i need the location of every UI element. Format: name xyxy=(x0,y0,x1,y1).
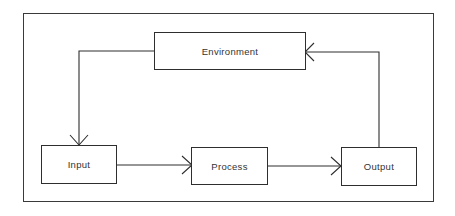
node-process: Process xyxy=(191,147,268,185)
node-environment: Environment xyxy=(154,32,306,70)
node-input: Input xyxy=(41,145,117,184)
node-label: Process xyxy=(211,161,247,172)
edge-environment-input xyxy=(79,51,154,145)
node-label: Input xyxy=(68,159,91,170)
node-output: Output xyxy=(341,147,417,186)
node-label: Output xyxy=(364,161,394,172)
edge-output-environment xyxy=(305,52,379,147)
node-label: Environment xyxy=(202,46,259,57)
